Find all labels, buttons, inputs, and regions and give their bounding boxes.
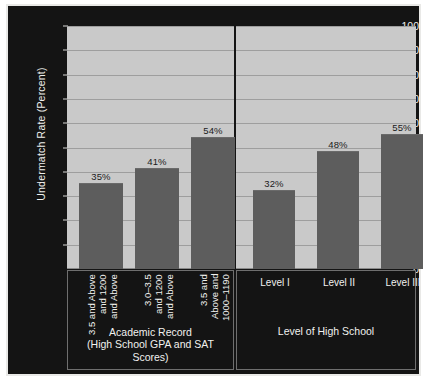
bar-value-label-0-1: 41% xyxy=(135,156,179,167)
plot-area: 35%41%54%32%48%55% xyxy=(67,26,416,269)
gridline-100 xyxy=(67,26,416,27)
group-title-left-line1: Academic Record xyxy=(68,326,233,339)
chart-screenshot: Undermatch Rate (Percent) 10090807060504… xyxy=(0,0,427,387)
category-box-level-of-high-school: Level ILevel IILevel III Level of High S… xyxy=(236,270,416,370)
bar-value-label-1-1: 48% xyxy=(317,139,359,150)
bar-1-0[interactable] xyxy=(253,190,295,269)
bar-value-label-0-0: 35% xyxy=(79,171,123,182)
bar-1-2[interactable] xyxy=(381,134,423,269)
gridline-50 xyxy=(67,148,416,149)
category-tick-right-2: Level III xyxy=(376,277,427,288)
category-tick-right-1: Level II xyxy=(312,277,366,288)
gridline-60 xyxy=(67,123,416,124)
bar-value-label-1-0: 32% xyxy=(253,178,295,189)
group-title-right-line1: Level of High School xyxy=(237,325,415,338)
bar-value-label-0-2: 54% xyxy=(191,125,235,136)
gridline-70 xyxy=(67,99,416,100)
bar-1-1[interactable] xyxy=(317,151,359,269)
bar-0-0[interactable] xyxy=(79,183,123,269)
group-title-left: Academic Record (High School GPA and SAT… xyxy=(68,326,233,364)
group-title-left-line2: (High School GPA and SAT Scores) xyxy=(68,338,233,363)
group-title-right: Level of High School xyxy=(237,325,415,338)
gridline-80 xyxy=(67,75,416,76)
bar-0-1[interactable] xyxy=(135,168,179,269)
category-tick-right-0: Level I xyxy=(248,277,302,288)
gridline-90 xyxy=(67,50,416,51)
bar-value-label-1-2: 55% xyxy=(381,122,423,133)
figure-frame: Undermatch Rate (Percent) 10090807060504… xyxy=(6,4,421,376)
category-box-academic-record: 3.5 and Above and 1200 and Above3.0–3.5 … xyxy=(67,270,234,370)
y-axis-title: Undermatch Rate (Percent) xyxy=(35,19,47,249)
bar-0-2[interactable] xyxy=(191,137,235,269)
figure: Undermatch Rate (Percent) 10090807060504… xyxy=(8,6,419,374)
